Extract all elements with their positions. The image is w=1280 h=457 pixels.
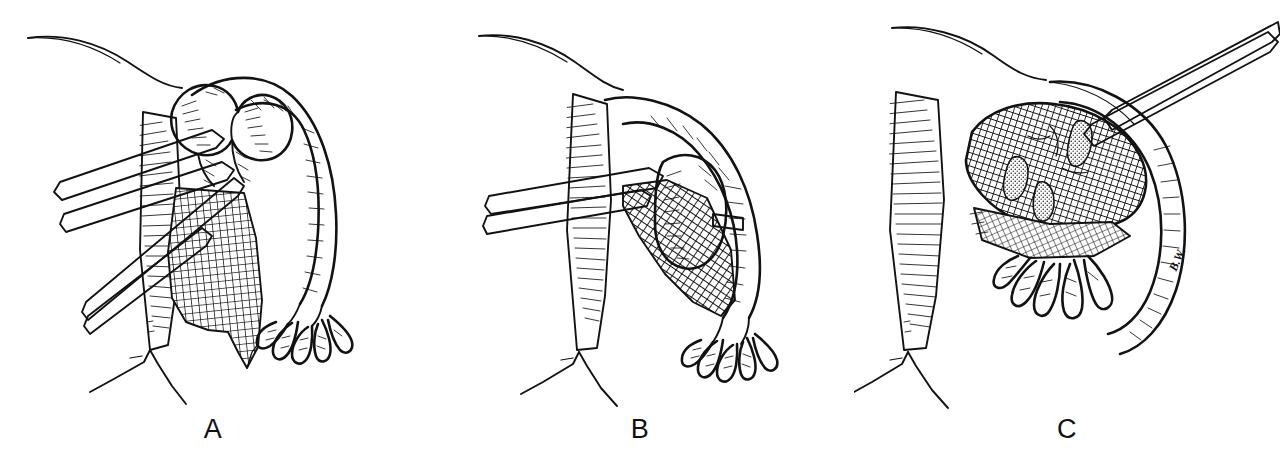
fimbriae [994, 256, 1113, 318]
artist-signature: B.W. [1166, 246, 1189, 274]
uterine-vessel-bifurcation [90, 321, 186, 404]
surgical-illustration-figure: A [0, 0, 1280, 457]
abdominal-wall-contour [892, 27, 1046, 80]
fimbriae [682, 334, 777, 382]
abdominal-wall-contour [479, 35, 623, 90]
panel-c: B.W. C [854, 0, 1280, 457]
fimbriae [257, 316, 352, 364]
panel-a-label: A [0, 416, 426, 443]
panel-c-label: C [854, 416, 1280, 443]
abdominal-wall-contour [28, 37, 182, 88]
panel-b-drawing [427, 0, 853, 457]
uterine-vessel-bifurcation [854, 321, 948, 408]
ampullary-swelling [171, 85, 292, 186]
panel-a: A [0, 0, 426, 457]
hatch-lines [563, 104, 606, 321]
broad-ligament-sheet [886, 92, 944, 350]
broad-ligament-sheet [563, 94, 611, 350]
uterine-vessel-bifurcation [521, 352, 617, 406]
panel-a-drawing [0, 0, 426, 457]
panel-c-drawing: B.W. [854, 0, 1280, 457]
panel-b-label: B [427, 416, 853, 443]
panel-b: B [427, 0, 853, 457]
signature-text: B.W. [1166, 246, 1189, 274]
mesosalpinx-mesh [607, 170, 757, 340]
